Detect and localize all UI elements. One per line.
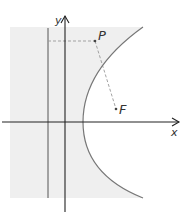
focus-label: F — [119, 102, 127, 117]
point-p — [94, 40, 97, 43]
point-p-label: P — [98, 28, 106, 43]
x-axis-label: x — [170, 126, 178, 139]
y-axis-label: y — [54, 14, 62, 27]
point-focus — [115, 108, 118, 111]
parabola-diagram: y x P F — [0, 0, 191, 220]
